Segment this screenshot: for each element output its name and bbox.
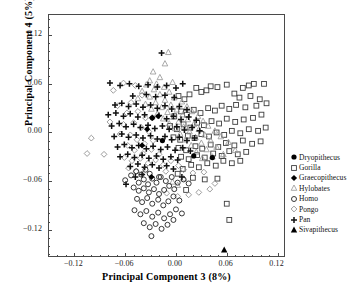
x-tick-minor xyxy=(261,255,262,257)
x-axis-title: Principal Component 3 (8%) xyxy=(48,271,285,282)
series-sivapithecus xyxy=(221,247,227,253)
y-axis-title: Principal Component 4 (5%) xyxy=(23,0,34,142)
x-tick-label: 0.12 xyxy=(257,259,297,269)
y-tick xyxy=(48,132,52,133)
plus-icon xyxy=(288,215,299,225)
y-tick-minor xyxy=(48,43,50,44)
y-tick-minor xyxy=(48,51,50,52)
x-tick-minor xyxy=(57,255,58,257)
legend-item-label: Sivapithecus xyxy=(299,225,338,234)
x-tick-minor xyxy=(83,255,84,257)
plot-area xyxy=(48,14,285,257)
x-tick-minor xyxy=(218,255,219,257)
data-points-layer xyxy=(49,15,284,256)
x-tick xyxy=(74,253,75,257)
y-tick xyxy=(48,35,52,36)
legend-item-hylobates[interactable]: Hylobates xyxy=(288,183,361,193)
x-tick-minor xyxy=(142,255,143,257)
y-tick-label: 0.00 xyxy=(8,126,42,136)
x-tick-minor xyxy=(100,255,101,257)
y-tick-minor xyxy=(48,173,50,174)
legend-item-sivapithecus[interactable]: Sivapithecus xyxy=(288,225,361,235)
y-tick-minor xyxy=(48,149,50,150)
legend-item-label: Hylobates xyxy=(299,184,330,193)
y-tick-minor xyxy=(48,27,50,28)
legend-item-dryopithecus[interactable]: Dryopithecus xyxy=(288,152,361,162)
x-tick-minor xyxy=(210,255,211,257)
x-tick-minor xyxy=(159,255,160,257)
x-tick xyxy=(125,253,126,257)
legend-item-label: Homo xyxy=(299,194,318,203)
x-tick-minor xyxy=(66,255,67,257)
filled-circle-icon xyxy=(288,152,299,162)
legend-item-homo[interactable]: Homo xyxy=(288,194,361,204)
x-tick-minor xyxy=(252,255,253,257)
y-tick-minor xyxy=(48,157,50,158)
filled-triangle-icon xyxy=(288,225,299,235)
y-tick-minor xyxy=(48,238,50,239)
x-tick-minor xyxy=(193,255,194,257)
open-triangle-icon xyxy=(288,183,299,193)
legend-item-graecopithecus[interactable]: Graecopithecus xyxy=(288,173,361,183)
y-tick-minor xyxy=(48,100,50,101)
x-tick xyxy=(227,253,228,257)
x-tick-minor xyxy=(108,255,109,257)
legend-item-pan[interactable]: Pan xyxy=(288,214,361,224)
y-tick-label: −0.12 xyxy=(8,224,42,234)
y-tick-minor xyxy=(48,205,50,206)
y-tick-minor xyxy=(48,189,50,190)
legend: DryopithecusGorillaGraecopithecusHylobat… xyxy=(288,152,361,235)
filled-diamond-icon xyxy=(288,173,299,183)
x-tick-minor xyxy=(168,255,169,257)
legend-item-label: Pongo xyxy=(299,205,318,214)
y-tick-minor xyxy=(48,222,50,223)
y-tick-minor xyxy=(48,213,50,214)
legend-item-label: Gorilla xyxy=(299,163,321,172)
open-square-icon xyxy=(288,163,299,173)
y-tick-minor xyxy=(48,124,50,125)
x-tick-minor xyxy=(244,255,245,257)
x-tick-minor xyxy=(151,255,152,257)
x-tick xyxy=(278,253,279,257)
y-tick-minor xyxy=(48,116,50,117)
legend-item-pongo[interactable]: Pongo xyxy=(288,204,361,214)
series-homo xyxy=(123,167,191,238)
x-tick xyxy=(176,253,177,257)
y-tick-minor xyxy=(48,19,50,20)
x-tick-minor xyxy=(134,255,135,257)
y-tick xyxy=(48,84,52,85)
series-gorilla xyxy=(168,81,269,222)
open-circle-icon xyxy=(288,194,299,204)
legend-item-label: Dryopithecus xyxy=(299,153,340,162)
legend-item-label: Pan xyxy=(299,215,310,224)
y-tick-minor xyxy=(48,254,50,255)
y-tick-minor xyxy=(48,92,50,93)
y-tick-minor xyxy=(48,141,50,142)
y-tick-minor xyxy=(48,76,50,77)
y-tick-minor xyxy=(48,68,50,69)
x-tick-label: 0.06 xyxy=(206,259,246,269)
y-tick-minor xyxy=(48,197,50,198)
y-tick-label: 0.06 xyxy=(8,78,42,88)
x-tick-minor xyxy=(184,255,185,257)
y-tick-minor xyxy=(48,108,50,109)
x-tick-label: −0.06 xyxy=(104,259,144,269)
y-tick-minor xyxy=(48,60,50,61)
y-tick xyxy=(48,181,52,182)
open-diamond-icon xyxy=(288,204,299,214)
y-tick-minor xyxy=(48,246,50,247)
x-tick-minor xyxy=(91,255,92,257)
x-tick-label: 0.00 xyxy=(155,259,195,269)
x-tick-minor xyxy=(235,255,236,257)
legend-item-label: Graecopithecus xyxy=(299,173,346,182)
y-tick-label: 0.12 xyxy=(8,29,42,39)
y-tick-label: −0.06 xyxy=(8,175,42,185)
x-tick-minor xyxy=(117,255,118,257)
pca-scatter-figure: Principal Component 4 (5%) −0.12−0.060.0… xyxy=(0,0,361,302)
x-tick-minor xyxy=(201,255,202,257)
y-tick xyxy=(48,230,52,231)
x-tick-label: −0.12 xyxy=(53,259,93,269)
legend-item-gorilla[interactable]: Gorilla xyxy=(288,162,361,172)
y-tick-minor xyxy=(48,165,50,166)
x-tick-minor xyxy=(269,255,270,257)
